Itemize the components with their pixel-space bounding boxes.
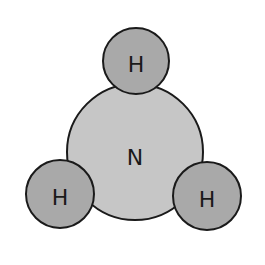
hydrogen-atom-top: H (103, 28, 169, 94)
hydrogen-label-right: H (199, 187, 216, 212)
hydrogen-label-top: H (128, 52, 145, 77)
ammonia-molecule: N H H H (0, 0, 265, 265)
hydrogen-atom-right: H (173, 162, 241, 230)
nitrogen-label: N (127, 145, 143, 170)
hydrogen-atom-left: H (26, 160, 94, 228)
molecule-diagram: N H H H (0, 0, 265, 265)
hydrogen-label-left: H (52, 185, 69, 210)
